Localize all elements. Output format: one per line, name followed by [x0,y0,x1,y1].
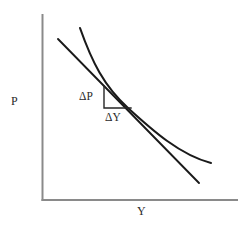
delta-p-label: ΔP [79,91,93,103]
figure-canvas [0,0,246,226]
demand-curve [80,28,211,163]
delta-y-label: ΔY [105,112,121,124]
slope-of-demand-curve-figure: P Y ΔP ΔY [0,0,246,226]
tangent-line [58,39,199,183]
output-axis-label: Y [137,205,146,217]
price-axis-label: P [11,95,18,107]
